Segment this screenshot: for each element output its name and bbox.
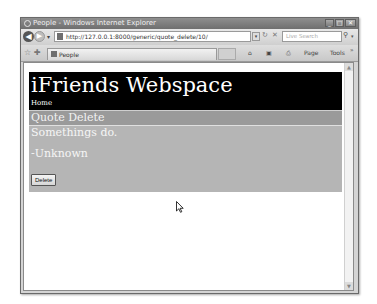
recent-pages-dropdown[interactable]: ▾ — [47, 33, 50, 40]
address-toolbar: ◀ ▶ ▾ http://127.0.0.1:8000/generic/quot… — [21, 29, 358, 45]
print-icon[interactable]: ⎙ — [286, 48, 291, 58]
window-controls: _ □ ✕ — [325, 19, 356, 27]
close-button[interactable]: ✕ — [345, 19, 356, 27]
tools-menu[interactable]: Tools — [330, 48, 345, 58]
search-icon[interactable]: ⚲ — [343, 31, 348, 39]
back-button[interactable]: ◀ — [23, 31, 34, 42]
add-favorites-icon[interactable]: ✚ — [34, 48, 41, 57]
ie-logo-icon — [24, 20, 31, 27]
more-chevron-icon[interactable]: » — [350, 45, 354, 55]
site-title: iFriends Webspace — [31, 73, 340, 98]
address-bar[interactable]: http://127.0.0.1:8000/generic/quote_dele… — [54, 31, 251, 42]
page-heading: Quote Delete — [29, 110, 342, 126]
stop-icon[interactable]: ✕ — [272, 31, 278, 39]
quote-text: Somethings do. — [31, 126, 340, 140]
window-title: People - Windows Internet Explorer — [33, 18, 156, 29]
mouse-cursor-icon — [176, 201, 184, 213]
minimize-button[interactable]: _ — [325, 19, 334, 27]
home-link[interactable]: Home — [31, 98, 340, 108]
search-options-dropdown[interactable]: ▾ — [351, 33, 354, 39]
delete-button[interactable]: Delete — [31, 174, 56, 186]
page-menu[interactable]: Page — [304, 48, 319, 58]
tab-label: People — [59, 49, 79, 60]
address-input[interactable]: http://127.0.0.1:8000/generic/quote_dele… — [66, 32, 208, 41]
refresh-icon[interactable]: ↻ — [262, 31, 268, 39]
scroll-up-icon[interactable]: ▲ — [345, 63, 353, 71]
search-box[interactable]: Live Search — [282, 31, 342, 42]
quote-panel: Somethings do. -Unknown Delete — [29, 126, 342, 192]
favorites-star-icon[interactable]: ☆ — [24, 48, 31, 57]
tab-people[interactable]: People — [47, 48, 217, 60]
title-bar[interactable]: People - Windows Internet Explorer _ □ ✕ — [21, 18, 358, 29]
vertical-scrollbar[interactable]: ▲ ▼ — [344, 63, 353, 290]
page-viewport: iFriends Webspace Home Quote Delete Some… — [23, 62, 354, 291]
browser-window: People - Windows Internet Explorer _ □ ✕… — [20, 17, 359, 294]
page-icon — [57, 33, 63, 40]
home-icon[interactable]: ⌂ — [248, 48, 252, 58]
forward-button[interactable]: ▶ — [34, 31, 45, 42]
maximize-button[interactable]: □ — [335, 19, 344, 27]
site-header: iFriends Webspace Home — [29, 72, 342, 110]
feeds-icon[interactable]: ▣ — [266, 48, 272, 58]
tab-page-icon — [51, 51, 57, 57]
web-page: iFriends Webspace Home Quote Delete Some… — [29, 72, 342, 192]
quote-author: -Unknown — [31, 147, 340, 161]
command-bar: ☆ ✚ People ⌂ ▣ ⎙ Page Tools » — [21, 45, 358, 62]
scroll-down-icon[interactable]: ▼ — [345, 282, 353, 290]
search-input[interactable]: Live Search — [286, 32, 318, 41]
new-tab-button[interactable] — [218, 48, 236, 60]
address-dropdown-button[interactable]: ▾ — [252, 32, 260, 41]
